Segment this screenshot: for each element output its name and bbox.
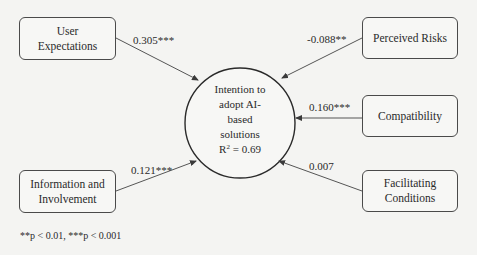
predictor-facilitating-conditions: Facilitating Conditions xyxy=(362,170,458,212)
predictor-label-line: User xyxy=(38,24,97,39)
coefficient-facilitating-conditions: 0.007 xyxy=(309,160,334,172)
predictor-label-line: Involvement xyxy=(30,192,104,207)
coefficient-perceived-risks: -0.088** xyxy=(307,33,346,45)
significance-footnote: **p < 0.01, ***p < 0.001 xyxy=(20,230,121,242)
predictor-label-line: Expectations xyxy=(38,39,97,54)
coefficient-compatibility: 0.160*** xyxy=(309,101,350,113)
outcome-label-line: Intention to xyxy=(196,82,284,97)
predictor-label-line: Perceived Risks xyxy=(373,31,447,46)
predictor-label-line: Facilitating xyxy=(384,176,436,191)
predictor-perceived-risks: Perceived Risks xyxy=(362,17,458,59)
outcome-label: Intention to adopt AI- based solutions R… xyxy=(196,82,284,157)
predictor-user-expectations: User Expectations xyxy=(19,17,116,60)
coefficient-user-expectations: 0.305*** xyxy=(133,34,174,46)
predictor-label-line: Information and xyxy=(30,177,104,192)
predictor-label-line: Compatibility xyxy=(378,109,442,124)
predictor-compatibility: Compatibility xyxy=(362,95,458,137)
outcome-label-line: adopt AI- xyxy=(196,97,284,112)
predictor-label-line: Conditions xyxy=(384,191,436,206)
predictor-information-involvement: Information and Involvement xyxy=(19,170,116,213)
outcome-label-line: solutions xyxy=(196,127,284,142)
coefficient-information-involvement: 0.121*** xyxy=(131,164,172,176)
r-squared-value: = 0.69 xyxy=(230,143,261,155)
r-squared: R2 = 0.69 xyxy=(196,142,284,157)
outcome-label-line: based xyxy=(196,112,284,127)
